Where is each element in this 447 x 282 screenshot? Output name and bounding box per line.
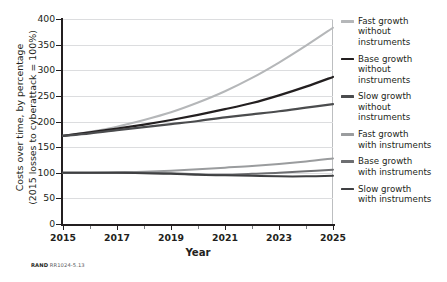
- series-line: [63, 173, 333, 177]
- legend-item[interactable]: Fast growth with instruments: [341, 129, 446, 150]
- series-line: [63, 77, 333, 136]
- legend-item[interactable]: Fast growth without instruments: [341, 16, 446, 47]
- y-axis-title-line1: Costs over time, by percentage: [14, 18, 27, 218]
- legend-label: Slow growth with instruments: [358, 184, 431, 205]
- series-line: [63, 158, 333, 172]
- legend-swatch: [341, 188, 354, 191]
- y-axis-title-line2: (2015 losses to cyberattack = 100%): [26, 18, 39, 218]
- legend-swatch: [341, 20, 354, 23]
- series-line: [63, 104, 333, 136]
- legend-swatch: [341, 58, 354, 61]
- source-note-id-wrap: RR1024-5.13: [48, 262, 85, 268]
- source-note: RAND RR1024-5.13: [31, 262, 85, 268]
- figure-root: 050100150200250300350400 201520172019202…: [0, 0, 447, 282]
- legend: Fast growth without instrumentsBase grow…: [341, 16, 446, 211]
- legend-label: Base growth without instruments: [358, 54, 412, 85]
- legend-label: Base growth with instruments: [358, 156, 431, 177]
- legend-label: Fast growth with instruments: [358, 129, 431, 150]
- legend-item[interactable]: Base growth with instruments: [341, 156, 446, 177]
- legend-swatch: [341, 95, 354, 98]
- legend-item[interactable]: Slow growth without instruments: [341, 91, 446, 122]
- series-line: [63, 28, 333, 136]
- source-note-id: RR1024-5.13: [50, 262, 85, 268]
- x-axis-title: Year: [63, 247, 333, 258]
- legend-swatch: [341, 160, 354, 163]
- source-note-prefix: RAND: [31, 262, 48, 268]
- y-axis-title: Costs over time, by percentage (2015 los…: [14, 18, 39, 218]
- legend-label: Fast growth without instruments: [358, 16, 410, 47]
- legend-item[interactable]: Slow growth with instruments: [341, 184, 446, 205]
- legend-label: Slow growth without instruments: [358, 91, 411, 122]
- legend-item[interactable]: Base growth without instruments: [341, 54, 446, 85]
- legend-swatch: [341, 133, 354, 136]
